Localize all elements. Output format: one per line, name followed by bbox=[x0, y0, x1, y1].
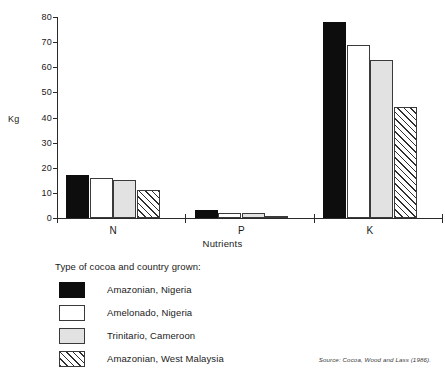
y-tick-label: 50 bbox=[30, 87, 52, 97]
bar bbox=[113, 180, 136, 218]
bar-group-n bbox=[66, 17, 160, 218]
x-category-label: K bbox=[366, 225, 373, 236]
legend-label: Trinitario, Cameroon bbox=[107, 330, 195, 341]
x-category-label: P bbox=[238, 225, 245, 236]
plot-bars-area bbox=[57, 17, 442, 218]
legend-item: Amelonado, Nigeria bbox=[55, 302, 315, 323]
legend-swatch bbox=[59, 328, 85, 344]
x-axis-title: Nutrients bbox=[0, 238, 445, 249]
legend-swatch bbox=[59, 351, 85, 367]
bar bbox=[90, 178, 113, 218]
bar bbox=[370, 60, 393, 218]
bar bbox=[195, 210, 218, 218]
y-tick-label: 0 bbox=[30, 213, 52, 223]
legend-item: Trinitario, Cameroon bbox=[55, 325, 315, 346]
bar-group-k bbox=[323, 17, 417, 218]
legend-swatch bbox=[59, 282, 85, 298]
y-tick-label: 70 bbox=[30, 37, 52, 47]
bar bbox=[137, 190, 160, 218]
legend-swatch bbox=[59, 305, 85, 321]
bar-group-p bbox=[195, 17, 289, 218]
bar bbox=[347, 45, 370, 218]
x-axis-line bbox=[57, 218, 442, 219]
y-tick-label: 60 bbox=[30, 62, 52, 72]
bar bbox=[66, 175, 89, 218]
bar-chart-figure: Kg 01020304050607080 NPK Nutrients bbox=[0, 0, 445, 250]
legend-item: Amazonian, Nigeria bbox=[55, 279, 315, 300]
x-category-label: N bbox=[109, 225, 116, 236]
y-axis-title: Kg bbox=[8, 114, 19, 124]
legend-label: Amelonado, Nigeria bbox=[107, 307, 192, 318]
bar bbox=[323, 22, 346, 218]
y-tick-label: 10 bbox=[30, 188, 52, 198]
legend: Type of cocoa and country grown: Amazoni… bbox=[55, 261, 315, 371]
y-tick-label: 80 bbox=[30, 12, 52, 22]
bar bbox=[394, 107, 417, 218]
legend-label: Amazonian, West Malaysia bbox=[107, 353, 224, 364]
bar bbox=[265, 216, 288, 219]
y-axis-tick-labels: 01020304050607080 bbox=[26, 0, 52, 250]
legend-items: Amazonian, NigeriaAmelonado, NigeriaTrin… bbox=[55, 279, 315, 369]
y-tick-label: 40 bbox=[30, 113, 52, 123]
legend-label: Amazonian, Nigeria bbox=[107, 284, 192, 295]
y-tick-label: 20 bbox=[30, 163, 52, 173]
y-tick-label: 30 bbox=[30, 138, 52, 148]
bar bbox=[242, 213, 265, 218]
bar bbox=[218, 213, 241, 218]
legend-item: Amazonian, West Malaysia bbox=[55, 348, 315, 369]
x-tick-mark bbox=[442, 214, 443, 223]
legend-title: Type of cocoa and country grown: bbox=[55, 261, 315, 272]
source-note: Source: Cocoa, Wood and Lass (1986). bbox=[319, 356, 431, 363]
